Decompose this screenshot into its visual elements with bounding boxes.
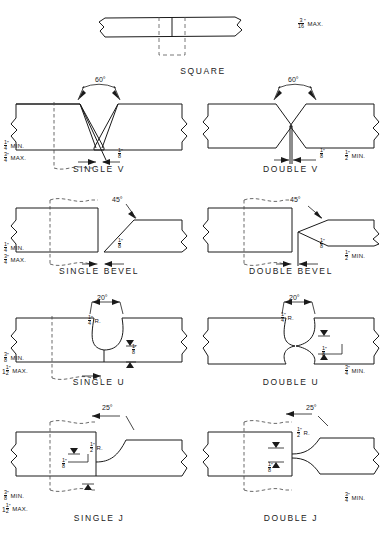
single-j-radius-fraction: 1 2 bbox=[90, 442, 93, 454]
double-u-angle: 20° bbox=[289, 294, 300, 301]
single-u-max-fraction: 1 2 bbox=[6, 365, 9, 377]
caption-double-j: DOUBLE J bbox=[200, 513, 382, 523]
single-u-max-label: 1 1 2 " MAX. bbox=[2, 365, 28, 377]
caption-single-bevel: SINGLE BEVEL bbox=[8, 266, 190, 276]
single-j-radius-label: 1 2 " R. bbox=[90, 442, 103, 454]
single-v-root-fraction: 1 8 bbox=[118, 148, 121, 160]
single-bevel-max-fraction: 3 4 bbox=[4, 254, 7, 266]
square-thickness-suffix: MAX. bbox=[307, 21, 323, 27]
single-j-min-fraction: 3 8 bbox=[4, 490, 7, 502]
double-j-min-label: 3 4 " MIN. bbox=[345, 492, 365, 504]
single-v-root-label: 1 8 " bbox=[118, 148, 123, 160]
double-u-radius-fraction: 1 4 bbox=[281, 312, 284, 324]
double-v-min-fraction: 1 2 bbox=[345, 150, 348, 162]
single-u-angle: 20° bbox=[97, 294, 108, 301]
double-bevel-min-fraction: 1 2 bbox=[345, 250, 348, 262]
joint-double-j bbox=[200, 400, 382, 480]
double-j-angle: 25° bbox=[306, 404, 317, 411]
caption-single-v: SINGLE V bbox=[8, 164, 190, 174]
double-bevel-root-fraction: 1 8 bbox=[320, 238, 323, 250]
double-bevel-min-label: 1 2 " MIN. bbox=[345, 250, 365, 262]
single-bevel-min-label: 1 4 " MIN. bbox=[4, 242, 24, 254]
joint-double-v bbox=[200, 72, 382, 150]
double-u-min-label: 3 4 " MIN. bbox=[345, 365, 365, 377]
double-v-min-label: 1 2 " MIN. bbox=[345, 150, 365, 162]
single-bevel-angle: 45° bbox=[112, 196, 123, 203]
caption-single-j: SINGLE J bbox=[8, 513, 190, 523]
caption-double-u: DOUBLE U bbox=[200, 377, 382, 387]
single-v-max-label: 3 4 " MAX. bbox=[4, 152, 26, 164]
single-bevel-root-label: 1 8 " bbox=[118, 238, 123, 250]
double-j-root-fraction: 1 8 bbox=[268, 462, 271, 474]
double-v-root-label: 1 8 " bbox=[320, 148, 325, 160]
single-v-angle: 60° bbox=[95, 76, 106, 83]
single-u-min-fraction: 3 8 bbox=[4, 352, 7, 364]
double-u-radius-label: 1 4 " R. bbox=[281, 312, 294, 324]
single-j-min-label: 3 8 " MIN. bbox=[4, 490, 24, 502]
double-j-radius-fraction: 1 2 bbox=[297, 427, 300, 439]
single-v-min-label: 1 4 " MIN. bbox=[4, 140, 24, 152]
caption-double-bevel: DOUBLE BEVEL bbox=[200, 266, 382, 276]
double-u-min-fraction: 3 4 bbox=[345, 365, 348, 377]
double-j-root-label: 1 8 " bbox=[268, 462, 273, 474]
single-u-root-label: 1 8 " bbox=[132, 344, 137, 356]
square-thickness-label: 3 16 " MAX. bbox=[298, 18, 323, 30]
joint-single-j bbox=[8, 400, 190, 480]
double-j-radius-label: 1 2 " R. bbox=[297, 427, 310, 439]
double-bevel-root-label: 1 8 " bbox=[320, 238, 325, 250]
single-u-radius-fraction: 1 4 bbox=[88, 315, 91, 327]
double-u-root-label: 1 8 " bbox=[322, 346, 327, 358]
double-u-root-fraction: 1 8 bbox=[322, 346, 325, 358]
single-u-root-fraction: 1 8 bbox=[132, 344, 135, 356]
joint-square bbox=[95, 8, 310, 66]
joint-double-bevel bbox=[200, 182, 382, 254]
caption-single-u: SINGLE U bbox=[8, 377, 190, 387]
double-j-min-fraction: 3 4 bbox=[345, 492, 348, 504]
joint-single-v bbox=[8, 72, 190, 150]
single-bevel-max-label: 3 4 " MAX. bbox=[4, 254, 26, 266]
single-u-radius-label: 1 4 " R. bbox=[88, 315, 101, 327]
double-v-angle: 60° bbox=[288, 76, 299, 83]
caption-double-v: DOUBLE V bbox=[200, 164, 382, 174]
joint-single-bevel bbox=[8, 182, 190, 254]
double-bevel-angle: 45° bbox=[290, 196, 301, 203]
single-bevel-root-fraction: 1 8 bbox=[118, 238, 121, 250]
welding-joint-figure: SQUARE 3 16 " MAX. bbox=[0, 0, 389, 533]
single-j-root-fraction: 1 8 bbox=[62, 458, 65, 470]
single-v-max-fraction: 3 4 bbox=[4, 152, 7, 164]
single-u-min-label: 3 8 " MIN. bbox=[4, 352, 24, 364]
single-j-angle: 25° bbox=[102, 404, 113, 411]
double-v-root-fraction: 1 8 bbox=[320, 148, 323, 160]
single-j-root-label: 1 8 " bbox=[62, 458, 67, 470]
square-thickness-fraction: 3 16 bbox=[298, 18, 304, 30]
